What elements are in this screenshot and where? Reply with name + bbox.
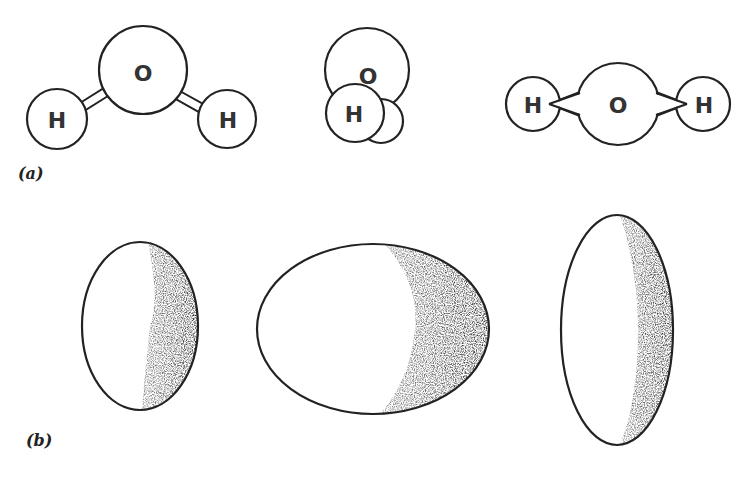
hydrogen-label-right: H	[219, 108, 237, 133]
hydrogen-label-right: H	[695, 93, 713, 118]
wide-ellipsoid	[257, 244, 495, 414]
hydrogen-label-left: H	[48, 108, 66, 133]
panel-b: (b)	[26, 215, 675, 450]
hydrogen-label-front: H	[345, 102, 363, 127]
panel-a-label: (a)	[18, 164, 44, 183]
panel-a: O H H O H H O	[18, 26, 730, 183]
oxygen-label: O	[359, 64, 378, 89]
tall-ellipsoid	[561, 215, 675, 445]
molecule-linear-view: H O H	[506, 63, 730, 145]
molecule-bent-view: O H H	[27, 26, 256, 149]
narrow-ellipsoid	[82, 242, 200, 410]
panel-b-label: (b)	[26, 431, 52, 450]
water-molecule-diagram: O H H O H H O	[0, 0, 751, 477]
hydrogen-label-left: H	[524, 93, 542, 118]
molecule-end-on-view: O H	[325, 28, 409, 143]
oxygen-label: O	[134, 61, 153, 86]
oxygen-label: O	[609, 93, 628, 118]
